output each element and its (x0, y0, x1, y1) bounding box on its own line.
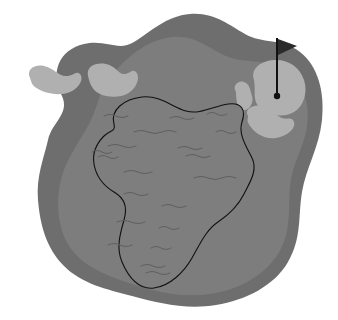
golf-hole-map-svg (0, 0, 338, 320)
golf-hole-map-canvas (0, 0, 338, 320)
hole-cup-marker (274, 93, 280, 99)
